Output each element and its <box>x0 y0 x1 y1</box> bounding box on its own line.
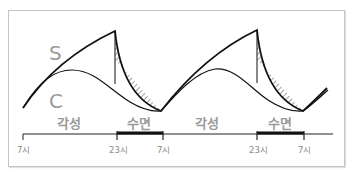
phase-label-wake-1: 각성 <box>57 116 81 131</box>
phase-label-sleep-2: 수면 <box>268 116 292 131</box>
s-curve-label: S <box>49 41 62 65</box>
two-process-diagram: S C 각성 수면 각성 수면 7시 23시 7시 23시 7시 <box>0 0 354 179</box>
tick-label-2: 23시 <box>109 145 128 155</box>
tick-label-5: 7시 <box>298 145 311 155</box>
phase-label-sleep-1: 수면 <box>127 116 151 131</box>
tick-label-1: 7시 <box>17 145 30 155</box>
tick-label-4: 23시 <box>249 145 268 155</box>
phase-label-wake-2: 각성 <box>195 116 219 131</box>
sleep-pressure-area-2 <box>257 30 303 111</box>
c-curve-label: C <box>49 89 63 113</box>
sleep-bar-1 <box>117 132 163 135</box>
sleep-pressure-area-1 <box>115 31 161 111</box>
sleep-bar-2 <box>257 132 304 135</box>
tick-label-3: 7시 <box>157 145 170 155</box>
